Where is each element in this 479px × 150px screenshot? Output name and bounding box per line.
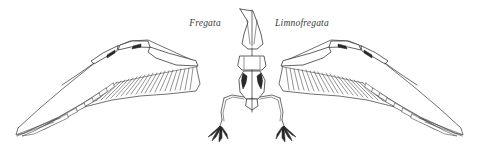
- figure-container: Fregata Limnofregata: [0, 0, 479, 150]
- shoulder-girdle: [238, 56, 266, 70]
- skeleton-diagram: Fregata Limnofregata: [0, 0, 479, 150]
- label-limnofregata: Limnofregata: [274, 18, 329, 28]
- label-fregata: Fregata: [188, 18, 221, 28]
- figure-background: [0, 0, 479, 150]
